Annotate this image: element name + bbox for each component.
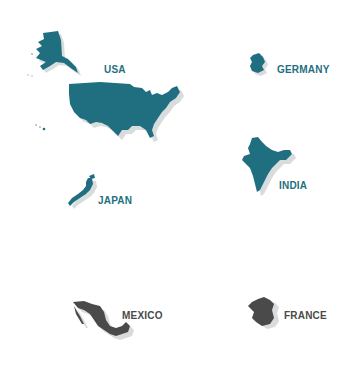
germany-map-icon [250,53,268,76]
india-label: INDIA [279,180,307,191]
france-label: FRANCE [284,310,327,321]
mexico-label: MEXICO [122,310,163,321]
usa-map-icon [27,31,184,142]
germany-label: GERMANY [277,64,330,75]
usa-label: USA [104,64,126,75]
japan-map-icon [68,174,97,209]
japan-label: JAPAN [98,195,132,206]
france-map-icon [248,297,279,329]
